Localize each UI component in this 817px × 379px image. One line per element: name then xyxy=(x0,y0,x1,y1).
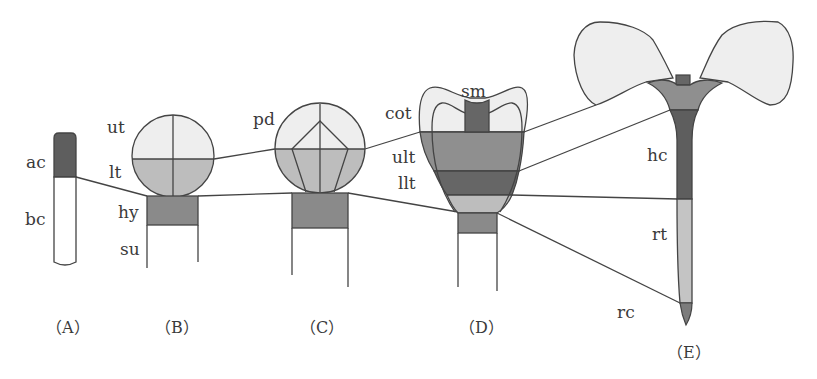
caption-d: （D） xyxy=(459,318,504,337)
caption-c: （C） xyxy=(300,318,344,337)
caption-e: （E） xyxy=(667,343,711,362)
caption-b: （B） xyxy=(155,318,199,337)
shoot-meristem xyxy=(465,100,489,132)
label-cot: cot xyxy=(385,103,412,123)
label-ult: ult xyxy=(392,147,415,167)
label-sm: sm xyxy=(461,81,486,101)
label-hy: hy xyxy=(118,202,139,222)
root-cap xyxy=(680,303,692,325)
stage-c-globular: pd （C） xyxy=(253,100,370,337)
lower-lower-tier xyxy=(434,171,519,195)
apical-cell xyxy=(54,133,76,177)
label-bc: bc xyxy=(25,209,45,229)
stage-d-heart: cot sm ult llt （D） xyxy=(385,81,528,337)
embryo-development-diagram: ac bc （A） ut lt hy su （B） xyxy=(0,0,817,379)
stage-e-seedling: hc rt rc （E） xyxy=(574,21,793,362)
label-pd: pd xyxy=(253,109,275,129)
label-rt: rt xyxy=(652,224,667,244)
hypocotyl xyxy=(670,110,698,199)
cotyledon-base xyxy=(648,80,722,110)
label-rc: rc xyxy=(617,302,635,322)
caption-a: （A） xyxy=(46,318,90,337)
right-cotyledon xyxy=(700,21,793,105)
root xyxy=(677,199,692,303)
label-llt: llt xyxy=(398,173,416,193)
hypophysis xyxy=(147,196,198,225)
label-ut: ut xyxy=(107,117,125,137)
label-ac: ac xyxy=(26,152,46,172)
stage-a-two-cell: ac bc （A） xyxy=(25,133,90,337)
left-cotyledon xyxy=(574,22,673,105)
label-hc: hc xyxy=(647,145,667,165)
basal-cell xyxy=(54,177,76,265)
label-su: su xyxy=(120,239,140,259)
stage-b-octant: ut lt hy su （B） xyxy=(107,110,220,337)
label-lt: lt xyxy=(109,162,121,182)
